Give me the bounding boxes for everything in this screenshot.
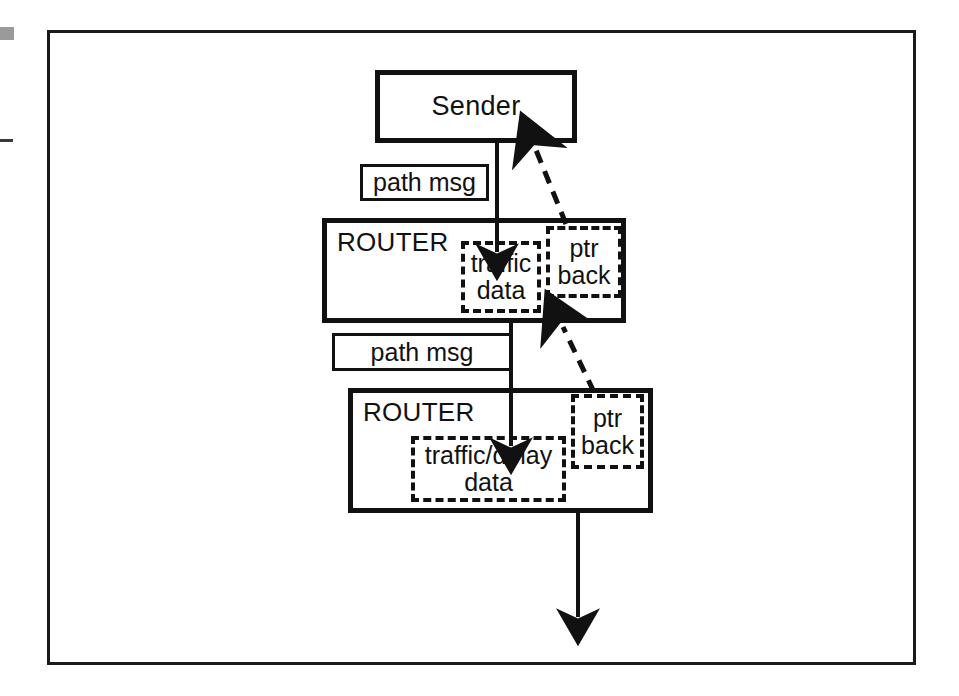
diagram-canvas: Sender path msg ROUTER traffic data ptr … [0, 0, 959, 696]
router-1-traffic-data-label: traffic data [471, 250, 532, 304]
path-msg-label-1: path msg [360, 164, 489, 201]
router-2-ptr-back-store: ptr back [571, 394, 644, 469]
sender-node: Sender [375, 70, 577, 143]
sender-node-label: Sender [432, 93, 521, 120]
path-msg-label-1-text: path msg [373, 170, 476, 195]
router-node-1-label: ROUTER [327, 223, 449, 255]
router-2-traffic-delay-data-label: traffic/delay data [425, 442, 552, 496]
scan-artifact-dash-mark [0, 139, 13, 142]
path-msg-label-2: path msg [332, 333, 512, 371]
router-1-ptr-back-store: ptr back [546, 226, 622, 298]
router-2-ptr-back-label: ptr back [581, 405, 634, 459]
router-node-2-label: ROUTER [353, 393, 475, 425]
router-1-ptr-back-label: ptr back [558, 235, 611, 289]
router-2-traffic-delay-data-store: traffic/delay data [411, 436, 566, 502]
scan-artifact-gray-mark [0, 27, 14, 40]
path-msg-label-2-text: path msg [371, 340, 474, 365]
router-1-traffic-data-store: traffic data [461, 241, 541, 313]
